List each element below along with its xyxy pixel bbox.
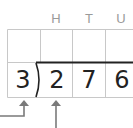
divisor: 3 — [10, 66, 36, 94]
dividend-units: 6 — [109, 66, 133, 94]
header-tens: T — [79, 11, 99, 26]
header-units: U — [111, 11, 131, 26]
dividend-hundreds: 2 — [44, 66, 70, 94]
division-bracket — [36, 63, 39, 97]
header-hundreds: H — [46, 11, 66, 26]
arrow-to-divisor — [0, 106, 24, 116]
arrowhead-divisor — [19, 100, 29, 106]
arrowhead-hundreds — [51, 100, 61, 106]
dividend-tens: 7 — [76, 66, 102, 94]
